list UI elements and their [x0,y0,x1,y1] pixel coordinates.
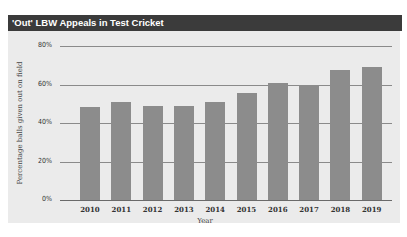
x-tick-label: 2018 [325,205,355,214]
bar-2012 [143,106,163,200]
x-tick-label: 2010 [75,205,105,214]
plot-area: 0%20%40%60%80%20102011201220132014201520… [0,0,407,237]
x-tick-label: 2011 [106,205,136,214]
bar-2015 [237,93,257,200]
bar-2011 [111,102,131,200]
y-tick-label: 80% [16,41,52,49]
x-tick-label: 2013 [169,205,199,214]
bar-2014 [205,102,225,200]
x-tick-label: 2017 [294,205,324,214]
x-axis-line [60,200,392,201]
y-axis-label: Percentage balls given out on field [16,61,24,184]
x-tick-label: 2014 [200,205,230,214]
bar-2019 [362,67,382,200]
x-axis-label: Year [185,217,225,225]
bar-2013 [174,106,194,200]
gridline [60,46,392,47]
y-tick-label: 0% [16,195,52,203]
x-tick-label: 2015 [232,205,262,214]
bar-2017 [299,85,319,201]
bar-2010 [80,107,100,200]
bar-2016 [268,83,288,200]
x-tick-label: 2019 [357,205,387,214]
bar-2018 [330,70,350,200]
x-tick-label: 2016 [263,205,293,214]
x-tick-label: 2012 [138,205,168,214]
